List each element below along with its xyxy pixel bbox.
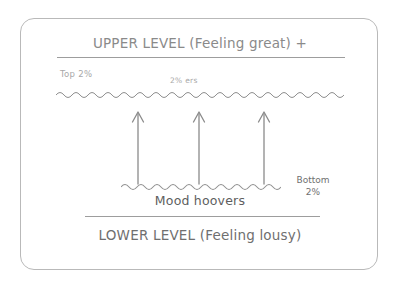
bottom-percentile-line-2: 2%	[286, 186, 340, 198]
lower-divider-rule	[85, 216, 320, 217]
mood-hoover-arrows	[0, 0, 400, 290]
mood-hoovers-label: Mood hoovers	[0, 194, 400, 208]
bottom-percentile-label: Bottom 2%	[286, 174, 340, 198]
lower-level-title: LOWER LEVEL (Feeling lousy)	[0, 228, 400, 244]
lower-wavy-line	[121, 180, 281, 194]
diagram-canvas: UPPER LEVEL (Feeling great) + Top 2% 2% …	[0, 0, 400, 290]
bottom-percentile-line-1: Bottom	[286, 174, 340, 186]
